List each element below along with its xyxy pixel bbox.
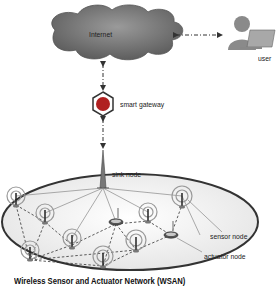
user-label: user	[258, 54, 271, 63]
sink-label: sink node	[112, 170, 141, 179]
internet-label: Internet	[89, 30, 112, 39]
user-icon	[228, 16, 275, 50]
diagram-caption: Wireless Sensor and Actuator Network (WS…	[14, 276, 185, 286]
sensor-label: sensor node	[210, 232, 247, 241]
internet-cloud-icon	[52, 5, 183, 60]
gateway-label: smart gateway	[120, 100, 164, 109]
smart-gateway-icon	[93, 92, 113, 116]
actuator-label: actuator node	[204, 252, 246, 261]
